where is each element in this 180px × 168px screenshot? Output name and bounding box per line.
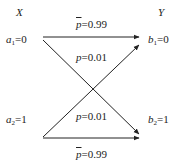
edge-a1-b1-value: =0.99 [82, 18, 107, 30]
edge-a2-b2-label: p=0.99 [76, 148, 107, 160]
edge-a1-b2-value: =0.01 [82, 51, 107, 63]
edge-a2-b1-value: =0.01 [82, 110, 107, 122]
edge-a2-b2-value: =0.99 [82, 148, 107, 160]
edge-a1-b1-label: p=0.99 [76, 18, 107, 30]
edge-a1-b2-label: p=0.01 [76, 51, 107, 63]
edge-a2-b1-label: p=0.01 [76, 110, 107, 122]
